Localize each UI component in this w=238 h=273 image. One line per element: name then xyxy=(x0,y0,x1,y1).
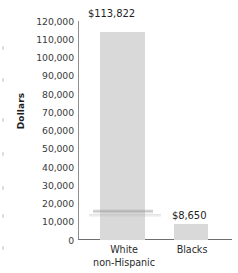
y-axis-tick-label: 120,000 xyxy=(20,17,74,26)
y-axis-tick-label: 60,000 xyxy=(20,126,74,135)
y-axis-tick-label: 100,000 xyxy=(20,53,74,62)
y-axis-tick-label: 70,000 xyxy=(20,108,74,117)
y-axis-tick-label: 30,000 xyxy=(20,181,74,190)
scan-artifact-edge xyxy=(0,0,8,273)
y-axis-tick-label: 110,000 xyxy=(20,35,74,44)
y-axis-tick-label: 10,000 xyxy=(20,217,74,226)
y-axis-tick-label: 40,000 xyxy=(20,163,74,172)
y-axis-tick-label: 80,000 xyxy=(20,90,74,99)
y-axis-tick-label: 50,000 xyxy=(20,144,74,153)
x-axis-label-line-1: Blacks xyxy=(177,244,208,255)
bar-blacks xyxy=(174,224,208,240)
plot-area xyxy=(79,21,232,240)
y-axis-tick-labels: 120,000110,000100,00090,00080,00070,0006… xyxy=(20,0,74,273)
value-label-white-non-hispanic: $113,822 xyxy=(88,8,135,19)
y-axis-tick-label: 90,000 xyxy=(20,71,74,80)
bar-white-non-hispanic xyxy=(100,32,145,240)
x-axis-label-line-2: non-Hispanic xyxy=(58,257,190,270)
bar-chart: Dollars 120,000110,000100,00090,00080,00… xyxy=(0,0,238,273)
x-axis-label-line-1: White xyxy=(110,244,138,255)
x-axis-label-blacks: Blacks xyxy=(152,244,232,257)
value-label-blacks: $8,650 xyxy=(172,210,206,221)
y-axis-tick-label: 20,000 xyxy=(20,199,74,208)
